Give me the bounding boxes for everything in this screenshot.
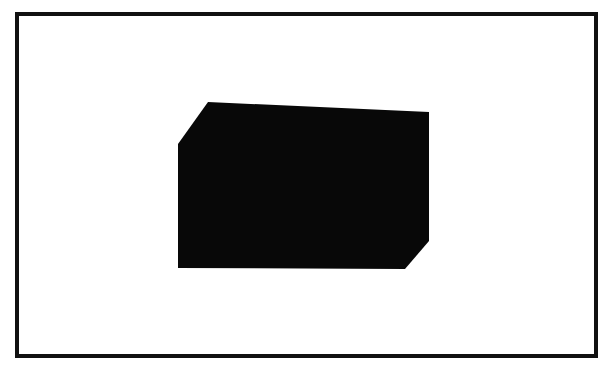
figure-canvas <box>0 0 612 376</box>
black-hexagon-silhouette <box>178 102 429 269</box>
figure-container: A solid black polygon with chamfered top… <box>0 0 612 376</box>
